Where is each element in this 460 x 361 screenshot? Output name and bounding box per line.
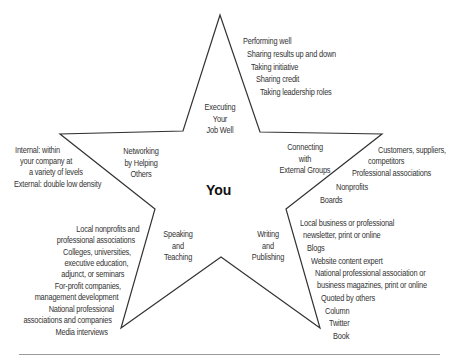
title-line: Job Well [199, 125, 240, 137]
bottom-left-point-item: Media interviews [56, 327, 108, 339]
title-line: with [279, 154, 331, 166]
left-point-item: Internal: within [15, 145, 60, 157]
title-line: Teaching [161, 252, 195, 264]
title-line: Connecting [279, 142, 331, 154]
bottom-left-point-item: Colleges, universities, [63, 247, 131, 259]
bottom-right-point-item: Local business or professional [300, 218, 394, 230]
right-point-item: competitors [368, 156, 404, 168]
right-point-item: Boards [320, 195, 342, 207]
bottom-left-point-item: associations and companies [24, 315, 112, 327]
bottom-left-point-item: executive education, [64, 258, 128, 270]
bottom-left-point-title: Speaking and Teaching [161, 229, 195, 264]
center-label-you: You [206, 182, 231, 198]
title-line: Your [199, 114, 240, 126]
top-point-title: Executing Your Job Well [199, 102, 240, 137]
title-line: by Helping [120, 158, 163, 170]
title-line: Writing [250, 229, 286, 241]
right-point-title: Connecting with External Groups [279, 142, 331, 177]
bottom-left-point-item: National professional [49, 304, 114, 316]
bottom-right-point-item: Blogs [307, 243, 325, 255]
right-point-item: Professional associations [352, 168, 431, 180]
bottom-right-point-title: Writing and Publishing [250, 229, 286, 264]
bottom-right-point-item: business magazines, print or online [317, 280, 427, 292]
top-point-item: Sharing credit [256, 74, 299, 86]
left-point-title: Networking by Helping Others [120, 146, 163, 181]
title-line: Speaking [161, 229, 195, 241]
bottom-left-point-item: Local nonprofits and [76, 224, 139, 236]
right-point-item: Nonprofits [336, 182, 368, 194]
top-point-item: Taking leadership roles [260, 87, 332, 99]
bottom-divider [19, 354, 440, 355]
bottom-left-point-item: adjunct, or seminars [61, 269, 124, 281]
title-line: and [161, 241, 195, 253]
bottom-left-point-item: management development [34, 292, 118, 304]
bottom-right-point-item: newsletter, print or online [303, 230, 381, 242]
star-diagram: Executing Your Job Well Performing well … [0, 0, 460, 361]
left-point-item: External: double low density [14, 179, 101, 191]
title-line: Executing [199, 102, 240, 114]
bottom-right-point-item: Column [325, 306, 349, 318]
top-point-item: Performing well [243, 36, 291, 48]
right-point-item: Customers, suppliers, [378, 145, 446, 157]
title-line: Others [120, 169, 163, 181]
title-line: Networking [120, 146, 163, 158]
bottom-right-point-item: Quoted by others [321, 293, 375, 305]
title-line: Publishing [250, 252, 286, 264]
bottom-right-point-item: Twitter [329, 318, 350, 330]
bottom-left-point-item: professional associations [57, 235, 135, 247]
title-line: External Groups [279, 165, 331, 177]
left-point-item: a variety of levels [29, 167, 83, 179]
bottom-right-point-item: National professional association or [315, 268, 425, 280]
top-point-item: Sharing results up and down [247, 49, 336, 61]
bottom-left-point-item: For-profit companies, [55, 281, 121, 293]
bottom-right-point-item: Book [333, 331, 349, 343]
title-line: and [250, 241, 286, 253]
top-point-item: Taking initiative [251, 62, 298, 74]
bottom-right-point-item: Website content expert [311, 256, 383, 268]
left-point-item: your company at [20, 156, 72, 168]
